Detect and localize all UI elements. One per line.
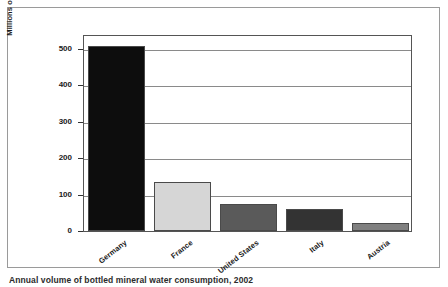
y-tick-label: 100 bbox=[38, 191, 72, 199]
plot-area bbox=[83, 35, 412, 232]
bar-united-states bbox=[220, 204, 277, 231]
figure-caption: Annual volume of bottled mineral water c… bbox=[9, 275, 253, 285]
bar-germany bbox=[88, 46, 145, 231]
bar-france bbox=[154, 182, 211, 231]
x-tick-label-italy: Italy bbox=[271, 238, 325, 283]
y-tick-label: 500 bbox=[38, 45, 72, 53]
x-tick-label-austria: Austria bbox=[337, 238, 391, 283]
y-axis-title: Millions of gallons bbox=[5, 0, 14, 62]
y-tick-label: 400 bbox=[38, 81, 72, 89]
y-tick-label: 300 bbox=[38, 118, 72, 126]
figure-border: Millions of gallons 0100200300400500 Ger… bbox=[7, 7, 440, 268]
bar-austria bbox=[352, 223, 409, 231]
y-tick-label: 200 bbox=[38, 154, 72, 162]
bar-italy bbox=[286, 209, 343, 231]
y-tick-label: 0 bbox=[38, 227, 72, 235]
